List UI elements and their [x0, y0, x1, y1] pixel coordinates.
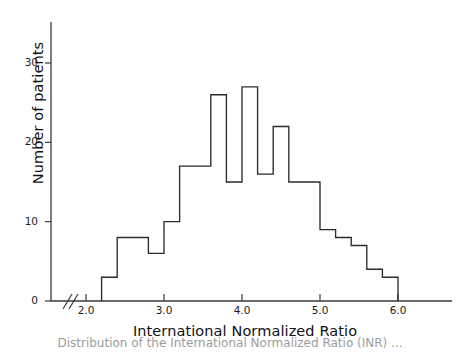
x-tick-label: 4.0	[222, 304, 262, 316]
figure-caption: Distribution of the International Normal…	[0, 336, 460, 350]
x-tick-label: 2.0	[66, 304, 106, 316]
y-tick-label: 10	[14, 215, 38, 227]
y-tick-label: 20	[14, 135, 38, 147]
y-axis-title: Number of patients	[30, 3, 46, 223]
x-axis-ticks	[86, 294, 398, 301]
histogram-step-outline	[102, 87, 398, 301]
y-tick-label: 0	[14, 294, 38, 306]
x-tick-label: 3.0	[144, 304, 184, 316]
x-tick-label: 5.0	[300, 304, 340, 316]
histogram-figure: Number of patients International Normali…	[0, 0, 460, 358]
axes	[51, 22, 452, 301]
x-tick-label: 6.0	[378, 304, 418, 316]
y-tick-label: 30	[14, 56, 38, 68]
